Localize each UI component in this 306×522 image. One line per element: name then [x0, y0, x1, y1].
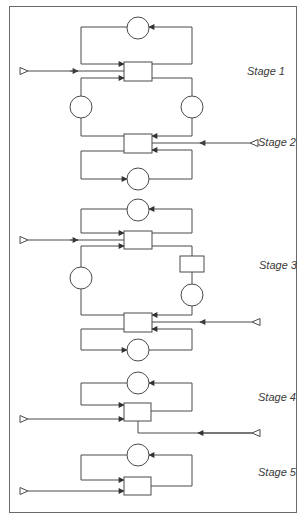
- stage-5-label: Stage 5: [258, 466, 296, 478]
- stage4-circle: [127, 372, 149, 394]
- stage3-right-box: [180, 256, 204, 272]
- stage3-upper-mixer-box: [124, 231, 152, 249]
- stage5-circle: [127, 444, 149, 466]
- stage3-input-triangle-left: [20, 237, 28, 244]
- stage4-input-triangle-left: [20, 416, 28, 423]
- stage3-left-circle: [70, 267, 92, 289]
- stage3-bottom-circle: [127, 339, 149, 361]
- stage1-right-circle: [181, 96, 203, 118]
- diagram-frame: [10, 7, 297, 513]
- stage3-input-triangle-right: [252, 319, 260, 326]
- stage4-mixer-box: [124, 403, 151, 421]
- stage-1-label: Stage 1: [247, 65, 285, 77]
- stage1-top-circle: [127, 17, 149, 39]
- stage-4-group: [20, 372, 260, 437]
- stage-4-label: Stage 4: [258, 391, 296, 403]
- stage-2-label: Stage 2: [258, 136, 296, 148]
- stage2-bottom-circle: [127, 168, 149, 190]
- stage-3-group: [20, 199, 260, 361]
- stage5-input-triangle: [20, 488, 28, 495]
- stage-1-group: [20, 17, 203, 136]
- stage3-lower-mixer-box: [124, 313, 152, 332]
- stage2-mixer-box: [124, 134, 152, 153]
- stage1-input-triangle: [20, 68, 28, 75]
- stage1-left-circle: [70, 96, 92, 118]
- stage-3-label: Stage 3: [259, 259, 297, 271]
- stage-2-group: [81, 134, 258, 190]
- stage5-mixer-box: [124, 477, 151, 495]
- stage4-input-triangle-right: [252, 430, 260, 437]
- stage2-input-triangle: [250, 140, 258, 147]
- stage1-mixer-box: [124, 62, 152, 81]
- stage3-right-circle: [181, 284, 203, 306]
- stage3-top-circle: [127, 199, 149, 221]
- stage-5-group: [20, 444, 192, 495]
